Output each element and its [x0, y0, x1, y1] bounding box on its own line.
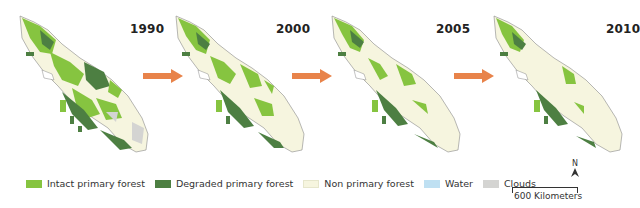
- legend-swatch: [26, 180, 42, 188]
- legend-label: Non primary forest: [324, 178, 414, 189]
- legend-item-non-primary-forest: Non primary forest: [303, 178, 414, 189]
- north-label: N: [568, 159, 582, 168]
- map-panel-1990: 1990: [0, 0, 160, 172]
- year-label-2005: 2005: [436, 22, 470, 36]
- year-label-2010: 2010: [606, 22, 640, 36]
- scale-bar-label: 600 Kilometers: [514, 191, 582, 201]
- north-arrow-icon: [571, 168, 579, 177]
- north-arrow: N: [568, 159, 582, 177]
- legend-swatch: [424, 180, 440, 188]
- map-legend: Intact primary forest Degraded primary f…: [26, 178, 546, 189]
- map-panel-2000: 2000: [160, 0, 320, 172]
- legend-label: Water: [445, 178, 473, 189]
- year-label-2000: 2000: [276, 22, 310, 36]
- legend-swatch: [303, 180, 319, 188]
- legend-label: Degraded primary forest: [176, 178, 293, 189]
- legend-swatch: [483, 180, 499, 188]
- legend-label: Intact primary forest: [47, 178, 145, 189]
- map-panel-2005: 2005: [318, 0, 478, 172]
- legend-item-intact-primary-forest: Intact primary forest: [26, 178, 145, 189]
- legend-item-water: Water: [424, 178, 473, 189]
- map-panel-2010: 2010: [478, 0, 638, 172]
- legend-swatch: [155, 180, 171, 188]
- legend-item-degraded-primary-forest: Degraded primary forest: [155, 178, 293, 189]
